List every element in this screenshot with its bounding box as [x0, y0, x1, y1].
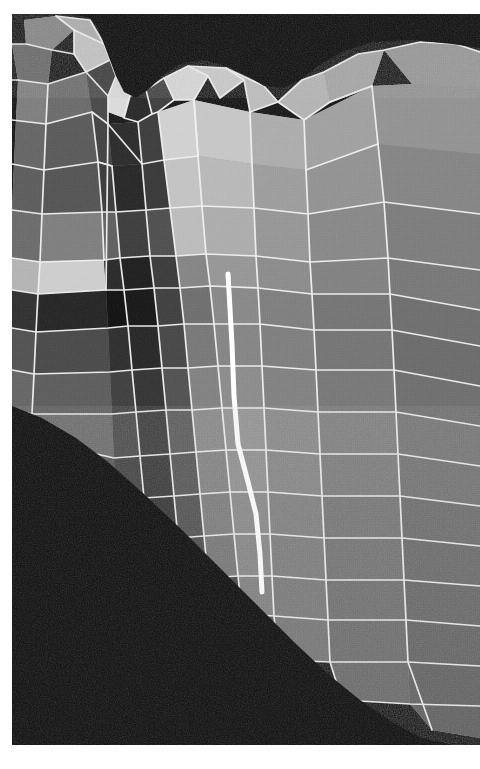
mesh-face	[270, 534, 326, 580]
mesh-face	[210, 286, 260, 324]
mesh-face	[140, 454, 174, 498]
mesh-face	[124, 288, 158, 326]
mesh-face	[12, 290, 38, 332]
mesh-face	[150, 256, 180, 288]
mesh-face	[184, 324, 218, 368]
mesh-face	[222, 408, 266, 450]
mesh-face	[40, 212, 104, 262]
wireframe-render-figure	[12, 14, 480, 745]
mesh-face	[272, 576, 328, 620]
mesh-face	[318, 412, 398, 454]
mesh-face	[324, 538, 404, 580]
mesh-face	[196, 450, 230, 494]
mesh-face	[112, 164, 146, 212]
mesh-face	[262, 366, 318, 412]
mesh-face	[12, 258, 40, 294]
mesh-face	[12, 328, 36, 374]
figure-page	[0, 0, 480, 769]
mesh-render-canvas	[12, 14, 480, 745]
mesh-face	[258, 288, 314, 330]
mesh-face	[180, 286, 214, 324]
mesh-face	[192, 408, 226, 452]
mesh-face	[322, 496, 402, 538]
mesh-face	[326, 580, 406, 620]
mesh-face	[404, 580, 480, 626]
mesh-face	[268, 492, 324, 538]
mesh-face	[38, 260, 106, 294]
mesh-face	[128, 326, 162, 370]
mesh-face	[12, 210, 42, 262]
mesh-face	[202, 206, 256, 256]
mesh-face	[206, 254, 258, 288]
mesh-face	[132, 368, 166, 412]
mesh-face	[314, 330, 394, 370]
mesh-face	[12, 44, 52, 84]
mesh-face	[214, 324, 262, 366]
mesh-face	[406, 620, 480, 666]
mesh-face	[32, 372, 112, 414]
mesh-face	[264, 408, 320, 454]
mesh-face	[154, 288, 184, 326]
mesh-face	[136, 410, 170, 456]
mesh-face	[198, 156, 254, 208]
mesh-face	[218, 366, 264, 408]
mesh-face	[266, 450, 322, 496]
mesh-face	[158, 324, 188, 368]
mesh-face	[260, 324, 316, 370]
mesh-face	[36, 290, 108, 332]
mesh-face	[14, 120, 46, 170]
mesh-face	[12, 164, 44, 214]
mesh-face	[312, 294, 392, 330]
mesh-face	[116, 210, 150, 258]
mesh-face	[16, 80, 48, 124]
mesh-face	[166, 410, 196, 454]
mesh-face	[328, 620, 408, 662]
mesh-face	[176, 254, 210, 288]
mesh-face	[316, 370, 396, 412]
mesh-face	[234, 534, 272, 576]
mesh-face	[252, 164, 308, 214]
mesh-face	[170, 452, 200, 496]
mesh-face	[254, 208, 310, 262]
mesh-face	[162, 368, 192, 410]
mesh-face	[200, 492, 234, 536]
mesh-face	[188, 366, 222, 410]
mesh-face	[120, 256, 154, 290]
mesh-face	[34, 328, 110, 374]
mesh-face	[250, 112, 306, 170]
mesh-face	[320, 454, 400, 496]
mesh-face	[310, 258, 390, 294]
mesh-face	[408, 662, 480, 706]
mesh-face	[372, 84, 480, 154]
